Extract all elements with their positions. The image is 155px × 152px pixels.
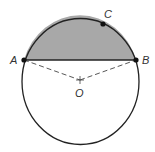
circle-segment-diagram: A B C O	[0, 0, 155, 152]
point-b-dot	[133, 57, 138, 62]
radius-oa	[24, 60, 80, 80]
label-a: A	[9, 54, 17, 66]
radius-ob	[80, 60, 136, 80]
label-b: B	[142, 54, 149, 66]
label-c: C	[104, 8, 112, 20]
shaded-segment	[24, 15, 136, 60]
label-o: O	[75, 87, 84, 99]
point-a-dot	[21, 57, 26, 62]
point-c-dot	[100, 21, 105, 26]
